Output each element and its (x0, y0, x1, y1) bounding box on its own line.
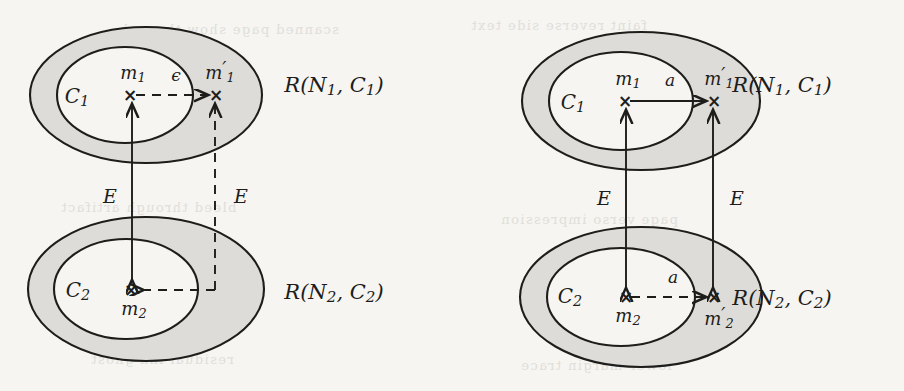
region-label-right-bottom: R(N2, C2) (731, 286, 831, 313)
point-marker-m2: × (124, 280, 138, 300)
label-E-right-right: E (729, 187, 744, 209)
label-epsilon: ϵ (171, 65, 181, 85)
label-a-top: a (665, 70, 675, 90)
panel-right: × × × × C1 C2 m1 m′1 m2 m′2 a (520, 32, 832, 367)
region-label-left-top: R(N1, C1) (283, 73, 383, 100)
label-a-bottom: a (668, 267, 678, 287)
point-marker-m1: × (123, 85, 137, 105)
diagram-svg: × × × C1 C2 m1 m′1 m2 ϵ E E R(N1, (0, 0, 904, 391)
point-marker-m1-right: × (618, 91, 632, 111)
point-marker-m2-right: × (619, 287, 633, 307)
point-marker-m1-prime: × (209, 85, 223, 105)
label-E-left-dashed: E (233, 185, 248, 207)
point-marker-m2-prime-right: × (707, 287, 721, 307)
point-marker-m1-prime-right: × (707, 91, 721, 111)
region-label-left-bottom: R(N2, C2) (283, 280, 383, 307)
label-E-right-left: E (596, 187, 611, 209)
figure-canvas: scanned page show-throughfaint reverse s… (0, 0, 904, 391)
label-E-left-solid: E (102, 185, 117, 207)
region-right-bottom (520, 227, 762, 367)
region-left-bottom (28, 217, 264, 361)
region-label-right-top: R(N1, C1) (731, 73, 831, 100)
panel-left: × × × C1 C2 m1 m′1 m2 ϵ E E R(N1, (28, 27, 384, 361)
